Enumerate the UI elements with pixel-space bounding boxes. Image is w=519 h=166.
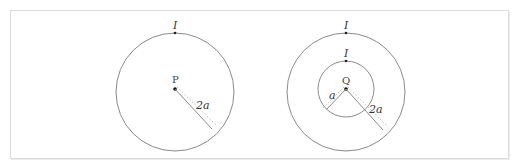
inner-current-label: I [343,47,349,60]
outer-current-marker [345,32,348,35]
outer-radius-label: 2a [368,103,383,116]
inner-radius-label: a [329,89,336,102]
left-loop-circle [116,33,234,151]
diagram-canvas: I P 2a I I Q a 2a [0,0,519,166]
left-current-label: I [172,19,178,32]
left-current-marker [174,32,177,35]
outer-current-label: I [343,19,349,32]
point-p-label: P [172,74,179,85]
point-q-label: Q [342,75,350,86]
left-loop-figure: I P 2a [116,19,234,151]
right-loops-figure: I I Q a 2a [287,19,405,151]
inner-current-marker [345,60,348,63]
left-radius-label: 2a [195,99,210,112]
